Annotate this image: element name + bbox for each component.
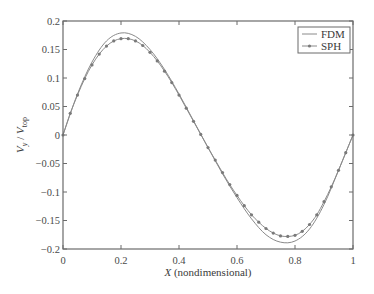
sph-data-point-marker <box>337 169 340 172</box>
x-axis-title-var: X <box>163 266 172 278</box>
sph-data-point-marker <box>98 52 101 55</box>
sph-data-point-marker <box>301 230 304 233</box>
sph-data-point-marker <box>228 183 231 186</box>
sph-data-point-marker <box>170 81 173 84</box>
sph-data-point-marker <box>90 63 93 66</box>
sph-data-point-marker <box>76 94 79 97</box>
y-tick-label: 0.2 <box>47 16 60 27</box>
sph-data-point-marker <box>134 39 137 42</box>
legend: FDM SPH <box>298 27 350 53</box>
sph-data-point-marker <box>83 77 86 80</box>
sph-data-point-marker <box>286 235 289 238</box>
sph-data-point-marker <box>272 231 275 234</box>
legend-sph-marker-icon <box>308 44 311 47</box>
y-tick-label: 0.1 <box>47 73 60 84</box>
sph-data-point-marker <box>293 234 296 237</box>
sph-data-point-marker <box>344 151 347 154</box>
x-tick-label: 1 <box>350 255 355 266</box>
x-tick-label: 0.4 <box>172 255 186 266</box>
sph-data-point-marker <box>112 39 115 42</box>
sph-data-point-marker <box>214 158 217 161</box>
sph-data-point-marker <box>119 37 122 40</box>
x-tick-label: 0.2 <box>114 255 127 266</box>
sph-data-point-marker <box>235 194 238 197</box>
sph-data-point-marker <box>221 171 224 174</box>
sph-data-point-marker <box>315 213 318 216</box>
plot-frame <box>63 21 353 249</box>
sph-data-point-marker <box>127 37 130 40</box>
sph-data-point-marker <box>330 185 333 188</box>
sph-data-point-marker <box>199 133 202 136</box>
x-tick-label: 0.8 <box>288 255 301 266</box>
sph-data-point-marker <box>69 112 72 115</box>
y-tick-label: −0.05 <box>36 158 60 169</box>
sph-data-point-marker <box>257 221 260 224</box>
x-axis-title-unit: (nondimensional) <box>174 266 252 279</box>
y-tick-label: 0.15 <box>42 44 60 55</box>
y-tick-label: −0.15 <box>36 215 60 226</box>
series-sph-line <box>63 38 353 236</box>
line-chart: 00.20.40.60.810.20.150.10.050−0.05−0.1−0… <box>0 0 374 294</box>
y-axis-title: Vy / Vtop <box>14 117 29 153</box>
y-tick-label: 0 <box>55 130 60 141</box>
sph-data-point-marker <box>206 146 209 149</box>
sph-data-point-marker <box>105 44 108 47</box>
sph-data-point-marker <box>279 234 282 237</box>
series-fdm-line <box>63 33 353 243</box>
legend-sph-label: SPH <box>321 40 341 52</box>
sph-data-point-marker <box>177 94 180 97</box>
sph-data-point-marker <box>243 204 246 207</box>
x-axis-title: X (nondimensional) <box>163 266 251 279</box>
x-tick-label: 0.6 <box>230 255 243 266</box>
sph-data-point-marker <box>192 120 195 123</box>
sph-data-point-marker <box>141 44 144 47</box>
sph-data-point-marker <box>185 107 188 110</box>
sph-data-point-marker <box>264 227 267 230</box>
sph-data-point-marker <box>148 51 151 54</box>
sph-data-point-marker <box>322 200 325 203</box>
sph-data-point-marker <box>308 223 311 226</box>
sph-data-point-marker <box>250 213 253 216</box>
y-tick-label: −0.1 <box>41 187 60 198</box>
y-tick-label: 0.05 <box>42 101 60 112</box>
series-layer <box>61 33 354 243</box>
y-tick-label: −0.2 <box>41 244 60 255</box>
x-tick-label: 0 <box>60 255 65 266</box>
sph-data-point-marker <box>156 59 159 62</box>
legend-fdm-label: FDM <box>321 28 345 40</box>
sph-data-point-marker <box>163 70 166 73</box>
